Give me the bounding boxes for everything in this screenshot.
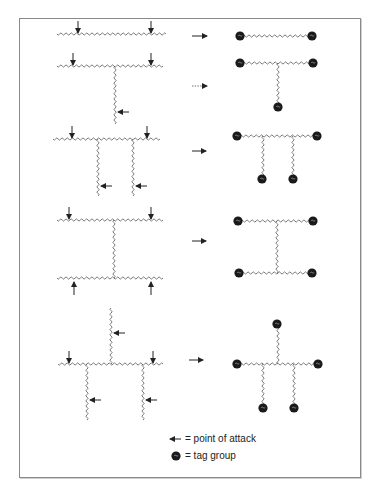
polymer-chain: [132, 139, 134, 196]
polymer-chain: [114, 66, 116, 124]
tag-group-icon: [258, 403, 267, 412]
product-structure: [232, 319, 322, 412]
polymer-chain: [262, 136, 264, 179]
polymer-chain: [57, 33, 166, 35]
tag-group-icon: [272, 319, 281, 328]
tag-group-icon: [233, 216, 242, 225]
diagram-row-linear: [57, 21, 317, 41]
tag-group-icon: [312, 131, 321, 140]
product-structure: [235, 58, 317, 111]
product-structure: [235, 31, 316, 40]
tag-group-icon: [307, 31, 316, 40]
polymer-chain: [292, 136, 294, 179]
tag-group-icon: [257, 174, 266, 183]
polymer-chain: [97, 139, 99, 196]
polymer-attack-diagram: [0, 0, 378, 497]
legend-tag-group: = tag group: [185, 450, 236, 462]
tag-group-icon: [235, 31, 244, 40]
polymer-chain: [53, 138, 160, 140]
tag-group-icon: [289, 403, 298, 412]
diagram-row-comb: [53, 126, 322, 196]
polymer-chain: [277, 324, 279, 364]
product-structure: [232, 131, 321, 183]
polymer-chain: [238, 220, 313, 222]
polymer-chain: [262, 364, 264, 408]
polymer-chain: [110, 308, 112, 364]
polymer-chain: [237, 135, 317, 137]
tag-group-icon: [232, 359, 241, 368]
polymer-chain: [113, 220, 115, 278]
diagram-row-h-shape: [57, 207, 318, 295]
polymer-chain: [57, 219, 163, 221]
polymer-chain: [57, 65, 163, 67]
tag-group-icon: [308, 216, 317, 225]
polymer-chain: [239, 272, 312, 274]
polymer-chain: [86, 364, 88, 420]
polymer-chain: [293, 364, 295, 408]
tag-group-icon: [234, 268, 243, 277]
legend-point-of-attack: = point of attack: [185, 433, 256, 445]
diagram-row-t-branch: [57, 53, 318, 124]
polymer-chain: [142, 364, 144, 420]
reactant-structure: [58, 308, 163, 420]
product-structure: [233, 216, 317, 277]
tag-group-icon: [273, 102, 282, 111]
reactant-structure: [57, 53, 163, 124]
legend-tag-group-icon: [171, 451, 180, 460]
reactant-structure: [53, 126, 160, 196]
reactant-structure: [57, 21, 166, 35]
tag-group-icon: [288, 174, 297, 183]
polymer-chain: [58, 363, 163, 365]
tag-group-icon: [307, 268, 316, 277]
polymer-chain: [240, 35, 312, 37]
polymer-chain: [240, 62, 313, 64]
polymer-chain: [277, 63, 279, 107]
reactant-structure: [57, 207, 163, 295]
polymer-chain: [57, 277, 163, 279]
diagram-row-star-comb: [58, 308, 323, 420]
polymer-chain: [276, 221, 278, 273]
tag-group-icon: [308, 58, 317, 67]
tag-group-icon: [313, 359, 322, 368]
tag-group-icon: [232, 131, 241, 140]
tag-group-icon: [235, 58, 244, 67]
